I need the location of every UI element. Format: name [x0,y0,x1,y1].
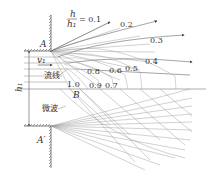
wave-label: 微波 [42,103,58,113]
reflected-waves [60,89,192,162]
diagram-canvas: A A′ B h h₁ = 0.1 0.2 0.3 0.4 0.5 0.6 0.… [0,0,212,180]
wave-leader [58,106,66,109]
contour-label-1.0: 1.0 [67,80,80,89]
point-a-prime-label: A′ [36,135,46,145]
ratio-label: h h₁ = 0.1 [67,9,101,29]
upper-wall [24,15,51,52]
velocity-label: v₁ [37,55,46,65]
lower-expansion-fan [51,89,192,170]
contour-label-0.2: 0.2 [120,20,133,29]
height-dimension [28,51,30,126]
contour-label-0.5: 0.5 [125,64,138,73]
expansion-wave-diagram: A A′ B h h₁ = 0.1 0.2 0.3 0.4 0.5 0.6 0.… [0,0,212,180]
point-a-label: A [39,39,47,49]
contour-label-0.7: 0.7 [105,81,118,90]
lower-wall [24,124,51,168]
streamline-label: 流线 [44,70,60,80]
contour-label-0.4: 0.4 [145,57,158,66]
contour-label-0.3: 0.3 [150,36,163,45]
contour-label-0.6: 0.6 [109,66,122,75]
height-label: h₁ [14,83,24,92]
svg-text:= 0.1: = 0.1 [79,15,101,24]
upper-expansion-fan [51,22,155,89]
svg-text:h: h [70,9,76,19]
svg-text:h₁: h₁ [67,19,76,29]
contour-label-0.9: 0.9 [89,81,102,90]
point-b-label: B [72,90,80,100]
contour-label-0.8: 0.8 [87,67,100,76]
